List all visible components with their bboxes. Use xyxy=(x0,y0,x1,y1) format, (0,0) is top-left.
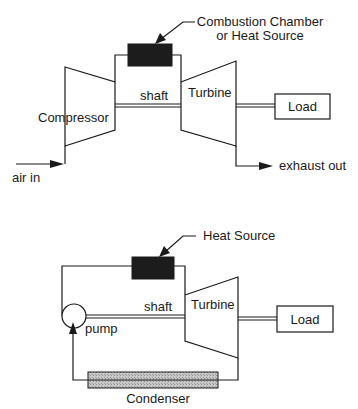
load-label: Load xyxy=(291,312,320,327)
pointer-arrow-icon xyxy=(159,236,196,257)
combustion-chamber-label-line2: or Heat Source xyxy=(216,28,303,43)
turbine-label: Turbine xyxy=(191,297,235,312)
compressor-label: Compressor xyxy=(38,110,109,125)
pump-label: pump xyxy=(85,321,118,336)
exhaust-out-label: exhaust out xyxy=(279,158,347,173)
compressor-outlet-pipe xyxy=(115,55,128,82)
combustion-chamber-label: Combustion Chamber xyxy=(197,14,324,29)
steam-turbine-diagram: Heat Source Turbine pump shaft Load xyxy=(62,228,333,406)
load-shaft xyxy=(238,317,277,320)
exhaust-pipe xyxy=(236,146,263,166)
arrow-right-icon xyxy=(259,162,273,170)
load-label: Load xyxy=(288,99,317,114)
turbine-label: Turbine xyxy=(188,85,232,100)
shaft xyxy=(115,104,181,107)
shaft-label: shaft xyxy=(140,88,169,103)
shaft xyxy=(86,315,185,318)
turbine xyxy=(181,61,236,146)
condenser-label: Condenser xyxy=(126,391,190,406)
shaft-label: shaft xyxy=(144,299,173,314)
pump xyxy=(62,304,86,328)
gas-turbine-diagram: Combustion Chamber or Heat Source Compre… xyxy=(12,14,347,185)
air-in-label: air in xyxy=(12,170,40,185)
turbine-inlet-pipe xyxy=(174,266,185,295)
pointer-arrow-icon xyxy=(155,22,195,44)
heat-source xyxy=(132,257,174,279)
power-cycle-diagram: Combustion Chamber or Heat Source Compre… xyxy=(0,0,358,409)
turbine xyxy=(185,277,238,358)
combustion-chamber xyxy=(128,44,172,66)
arrow-right-icon xyxy=(50,160,64,168)
heat-source-label: Heat Source xyxy=(203,228,275,243)
turbine-inlet-pipe xyxy=(172,55,181,82)
compressor xyxy=(65,67,115,146)
load-shaft xyxy=(236,104,275,107)
